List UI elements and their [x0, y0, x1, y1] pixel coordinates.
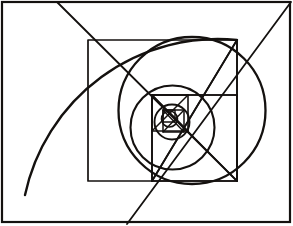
geometric-figure-canvas [0, 0, 293, 226]
construction-drawing [0, 0, 293, 226]
figure-background [0, 0, 293, 226]
